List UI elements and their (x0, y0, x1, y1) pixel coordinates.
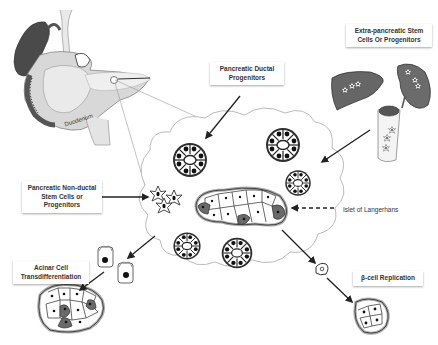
liver-illustration (332, 72, 384, 110)
duct-rosette (266, 128, 300, 162)
extra-pancreatic-label: Extra-pancreatic Stem Cells Or Progenito… (346, 24, 432, 47)
label-line: Acinar Cell (17, 264, 85, 273)
acinar-derived-islet (39, 284, 104, 332)
duct-rosette (222, 238, 253, 269)
label-line: Pancreatic Non-ductal (26, 184, 98, 193)
islet-of-langerhans (196, 188, 287, 225)
label-line: Cells Or Progenitors (350, 36, 428, 45)
label-line: Pancreatic Ductal (214, 65, 280, 74)
bone-marrow-illustration (378, 106, 400, 162)
duct-rosette (285, 170, 311, 196)
replicated-islet (355, 299, 388, 333)
islet-label: Islet of Langerhans (339, 203, 427, 218)
spleen-illustration (397, 64, 430, 108)
label-line: Stem Cells or (26, 193, 98, 202)
pancreatic-ductal-label: Pancreatic Ductal Progenitors (210, 62, 284, 85)
label-line: Extra-pancreatic Stem (350, 27, 428, 36)
acinar-cells (98, 246, 133, 283)
arrow-beta-replication (327, 278, 352, 302)
label-line: Progenitors (26, 201, 98, 210)
non-ductal-label: Pancreatic Non-ductal Stem Cells or Prog… (22, 181, 102, 213)
diagram-canvas (0, 0, 438, 345)
label-line: Progenitors (214, 74, 280, 83)
label-line: Transdifferentiation (17, 273, 85, 282)
acinar-label: Acinar Cell Transdifferentiation (13, 261, 89, 284)
beta-replication-label: β-cell Replication (353, 271, 423, 286)
single-beta-cell (316, 263, 328, 274)
pancreas-illustration (14, 10, 150, 145)
duct-rosette (173, 143, 207, 177)
arrow-to-acinar (128, 236, 155, 258)
duct-rosette (173, 232, 200, 259)
